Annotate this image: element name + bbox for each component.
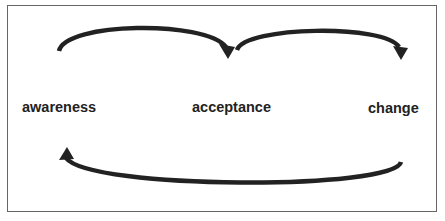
node-awareness: awareness <box>22 99 96 115</box>
node-change: change <box>368 100 419 116</box>
arrow-awareness-to-acceptance <box>59 28 226 51</box>
arrowhead-awareness-icon <box>59 147 74 160</box>
node-acceptance: acceptance <box>192 99 271 115</box>
arrowhead-change-icon <box>393 46 408 60</box>
arrow-acceptance-to-change <box>237 31 399 50</box>
arrow-change-to-awareness <box>66 158 401 183</box>
arrowhead-acceptance-icon <box>219 44 235 59</box>
